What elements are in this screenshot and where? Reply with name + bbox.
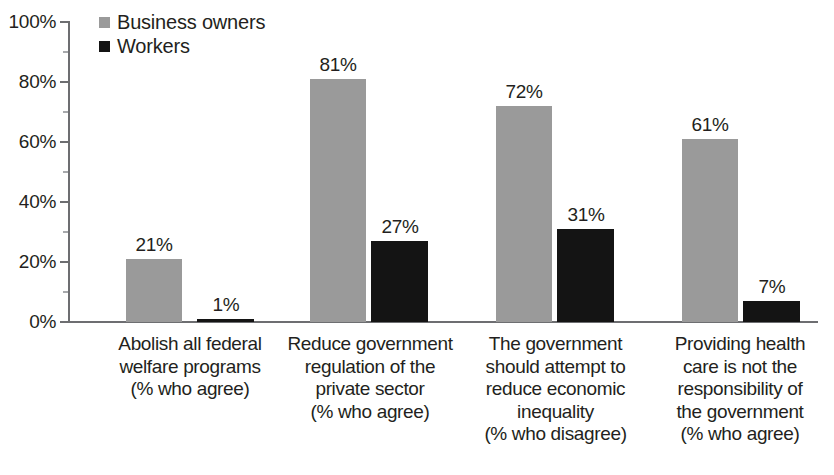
bar-chart: 100% 80% 60% 40% 20% 0% Business owners … xyxy=(0,0,834,475)
legend-item-business-owners: Business owners xyxy=(99,10,265,34)
y-tick-20 xyxy=(60,261,68,263)
y-axis-label-40: 40% xyxy=(0,192,56,211)
y-axis-label-0: 0% xyxy=(0,312,56,331)
business-owners-swatch-icon xyxy=(99,17,110,28)
category-label-2-line-3: inequality xyxy=(458,401,653,424)
legend-item-workers: Workers xyxy=(99,34,265,58)
y-tick-40 xyxy=(60,201,68,203)
bar-owners-1 xyxy=(310,79,366,322)
category-label-3-line-0: Providing health xyxy=(645,333,834,356)
plot-area: 100% 80% 60% 40% 20% 0% Business owners … xyxy=(0,0,834,475)
category-label-3-line-1: care is not the xyxy=(645,356,834,379)
category-label-2-line-1: should attempt to xyxy=(458,356,653,379)
bar-value-workers-3: 7% xyxy=(734,277,810,296)
legend-label-workers: Workers xyxy=(117,36,190,56)
y-axis-label-80: 80% xyxy=(0,72,56,91)
bar-workers-3 xyxy=(743,301,800,322)
bar-owners-2 xyxy=(496,106,552,322)
category-label-1-line-1: regulation of the xyxy=(275,356,465,379)
category-label-2-line-2: reduce economic xyxy=(458,378,653,401)
workers-swatch-icon xyxy=(99,41,110,52)
category-label-0-line-0: Abolish all federal xyxy=(95,333,285,356)
y-tick-60 xyxy=(60,141,68,143)
bar-workers-1 xyxy=(371,241,428,322)
category-label-2-line-4: (% who disagree) xyxy=(458,423,653,446)
category-label-1: Reduce government regulation of the priv… xyxy=(275,333,465,423)
category-label-2: The government should attempt to reduce … xyxy=(458,333,653,446)
y-axis-label-60: 60% xyxy=(0,132,56,151)
category-label-0: Abolish all federal welfare programs (% … xyxy=(95,333,285,401)
y-tick-minor-50 xyxy=(63,171,68,173)
y-tick-minor-90 xyxy=(63,51,68,53)
bar-value-owners-0: 21% xyxy=(116,235,192,254)
y-axis-line xyxy=(68,21,70,323)
bar-value-workers-0: 1% xyxy=(188,295,264,314)
legend: Business owners Workers xyxy=(99,10,265,58)
category-label-3-line-4: (% who agree) xyxy=(645,423,834,446)
bar-value-workers-2: 31% xyxy=(548,205,624,224)
y-axis-label-20: 20% xyxy=(0,252,56,271)
y-tick-minor-10 xyxy=(63,291,68,293)
y-tick-80 xyxy=(60,81,68,83)
bar-workers-0 xyxy=(197,319,254,322)
bar-value-owners-1: 81% xyxy=(300,55,376,74)
y-tick-minor-30 xyxy=(63,231,68,233)
y-tick-0 xyxy=(60,321,68,323)
y-tick-100 xyxy=(60,21,68,23)
bar-owners-3 xyxy=(682,139,738,322)
category-label-2-line-0: The government xyxy=(458,333,653,356)
category-label-1-line-3: (% who agree) xyxy=(275,401,465,424)
bar-value-workers-1: 27% xyxy=(362,217,438,236)
legend-label-business-owners: Business owners xyxy=(117,12,265,32)
bar-workers-2 xyxy=(557,229,614,322)
category-label-0-line-2: (% who agree) xyxy=(95,378,285,401)
y-axis-label-100: 100% xyxy=(0,12,56,31)
category-label-3-line-2: responsibility of xyxy=(645,378,834,401)
category-label-0-line-1: welfare programs xyxy=(95,356,285,379)
y-tick-minor-70 xyxy=(63,111,68,113)
category-label-3-line-3: the government xyxy=(645,401,834,424)
bar-value-owners-3: 61% xyxy=(672,115,748,134)
bar-value-owners-2: 72% xyxy=(486,82,562,101)
bar-owners-0 xyxy=(126,259,182,322)
category-label-1-line-0: Reduce government xyxy=(275,333,465,356)
category-label-1-line-2: private sector xyxy=(275,378,465,401)
category-label-3: Providing health care is not the respons… xyxy=(645,333,834,446)
